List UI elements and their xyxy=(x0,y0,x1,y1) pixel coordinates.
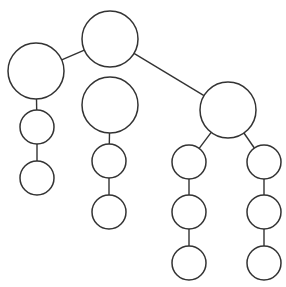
node-right-a-3 xyxy=(172,246,206,280)
node-middle xyxy=(82,77,138,133)
tree-diagram xyxy=(0,0,286,287)
edge-root-to-left xyxy=(62,50,85,60)
node-root xyxy=(82,11,138,67)
node-right xyxy=(200,82,256,138)
node-right-b-1 xyxy=(247,145,281,179)
nodes-layer xyxy=(8,11,281,280)
node-right-a-2 xyxy=(172,195,206,229)
node-right-b-2 xyxy=(247,195,281,229)
edge-right-to-right-a-1 xyxy=(199,132,211,148)
node-left xyxy=(8,43,64,99)
edge-right-to-right-b-1 xyxy=(244,133,254,148)
node-middle-1 xyxy=(92,144,126,178)
edges-layer xyxy=(36,50,264,246)
node-right-b-3 xyxy=(247,246,281,280)
node-left-2 xyxy=(20,161,54,195)
node-right-a-1 xyxy=(172,145,206,179)
node-left-1 xyxy=(20,110,54,144)
edge-root-to-right xyxy=(134,53,204,95)
node-middle-2 xyxy=(92,195,126,229)
